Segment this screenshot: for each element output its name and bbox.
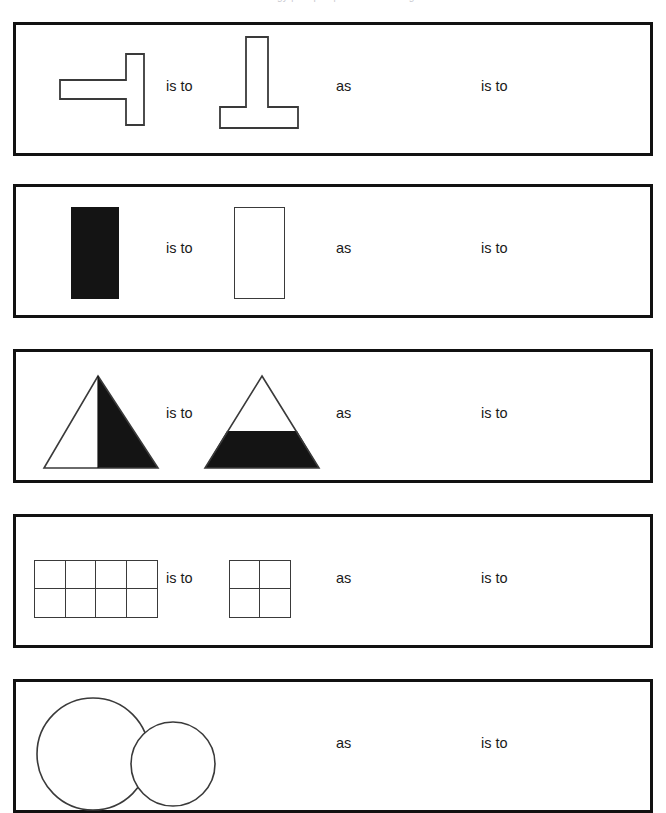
clipped-header-text: analogy | shapes | visual reasoning bbox=[0, 0, 666, 3]
row-4-answer-slot[interactable] bbox=[556, 547, 641, 619]
analogy-row-3: is to as is to bbox=[13, 349, 653, 483]
shape-rectangle-filled bbox=[71, 207, 119, 299]
row-5-as: as bbox=[336, 736, 351, 751]
row-2-as: as bbox=[336, 241, 351, 256]
row-4-is-to-1: is to bbox=[166, 571, 193, 586]
row-1-answer-slot[interactable] bbox=[556, 45, 641, 135]
shape-triangle-bottom-filled bbox=[201, 372, 325, 472]
row-2-is-to-2: is to bbox=[481, 241, 508, 256]
shape-triangle-right-half-filled bbox=[40, 372, 164, 472]
grid-cell bbox=[230, 561, 260, 589]
grid-cell bbox=[260, 561, 290, 589]
grid-cell bbox=[260, 589, 290, 617]
row-4-as: as bbox=[336, 571, 351, 586]
shape-grid-4x2 bbox=[34, 560, 158, 618]
row-2-is-to-1: is to bbox=[166, 241, 193, 256]
row-1-is-to-1: is to bbox=[166, 79, 193, 94]
grid-cell bbox=[66, 561, 97, 589]
shape-grid-2x2 bbox=[229, 560, 291, 618]
grid-cell bbox=[230, 589, 260, 617]
shape-rectangle-outline bbox=[234, 207, 285, 299]
row-4-is-to-2: is to bbox=[481, 571, 508, 586]
analogy-row-5: is to as is to bbox=[13, 679, 653, 813]
grid-cell bbox=[35, 561, 66, 589]
shape-tee-rotated-left bbox=[58, 52, 148, 127]
row-3-as: as bbox=[336, 406, 351, 421]
grid-cell bbox=[35, 589, 66, 617]
row-5-is-to-2: is to bbox=[481, 736, 508, 751]
row-1-is-to-2: is to bbox=[481, 79, 508, 94]
analogy-row-4: is to as is to bbox=[13, 514, 653, 648]
row-3-is-to-2: is to bbox=[481, 406, 508, 421]
grid-cell bbox=[66, 589, 97, 617]
analogy-row-1: is to as is to bbox=[13, 22, 653, 156]
row-1-as: as bbox=[336, 79, 351, 94]
grid-cell bbox=[127, 561, 158, 589]
row-2-answer-slot[interactable] bbox=[556, 207, 641, 299]
row-3-is-to-1: is to bbox=[166, 406, 193, 421]
analogy-row-2: is to as is to bbox=[13, 184, 653, 318]
grid-cell bbox=[127, 589, 158, 617]
shape-circle-small bbox=[128, 719, 220, 811]
grid-cell bbox=[96, 589, 127, 617]
row-3-answer-slot[interactable] bbox=[556, 372, 641, 464]
grid-cell bbox=[96, 561, 127, 589]
shape-tee-inverted bbox=[218, 35, 300, 130]
row-5-answer-slot[interactable] bbox=[556, 702, 641, 794]
